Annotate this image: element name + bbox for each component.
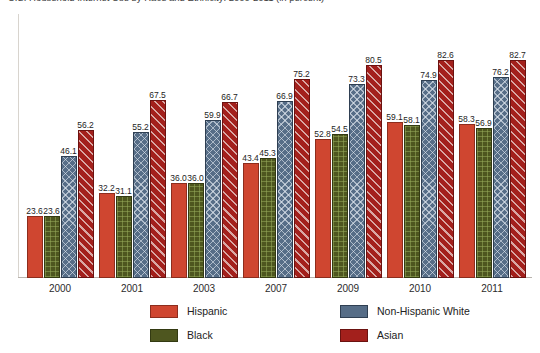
- bar: 54.5: [332, 134, 348, 278]
- bar-value-label: 32.2: [98, 184, 115, 193]
- bar-value-label: 82.7: [509, 51, 526, 60]
- legend-swatch-hispanic: [150, 305, 178, 318]
- bar-value-label: 59.9: [204, 111, 221, 120]
- bar-value-label: 31.1: [115, 187, 132, 196]
- bar: 31.1: [116, 196, 132, 278]
- bar: 82.7: [510, 60, 526, 278]
- bar-value-label: 58.1: [403, 116, 420, 125]
- x-axis-tick-label: 2007: [241, 282, 311, 295]
- bar: 46.1: [61, 156, 77, 278]
- bar: 58.1: [404, 125, 420, 278]
- diamond-pattern-icon: [206, 121, 220, 277]
- bar: 58.3: [459, 124, 475, 278]
- legend-item-hispanic[interactable]: Hispanic: [150, 303, 227, 319]
- bar-group: 23.623.646.156.2: [24, 14, 96, 278]
- x-axis-tick-label: 2001: [97, 282, 167, 295]
- legend-swatch-non-hispanic-white: [340, 305, 368, 318]
- bar-value-label: 66.7: [221, 93, 238, 102]
- bar-value-label: 73.3: [348, 75, 365, 84]
- bar: 23.6: [27, 216, 43, 278]
- bar: 66.9: [277, 101, 293, 278]
- bar-value-label: 46.1: [60, 147, 77, 156]
- bar-value-label: 55.2: [132, 123, 149, 132]
- bar-value-label: 74.9: [420, 71, 437, 80]
- bar: 67.5: [150, 100, 166, 278]
- bar-value-label: 23.6: [43, 207, 60, 216]
- stripe-pattern-icon: [151, 101, 165, 277]
- x-axis-tick-label: 2000: [25, 282, 95, 295]
- bar: 59.9: [205, 120, 221, 278]
- bar-group: 36.036.059.966.7: [168, 14, 240, 278]
- bar: 75.2: [294, 79, 310, 278]
- legend-label-hispanic: Hispanic: [187, 305, 227, 318]
- x-axis-tick-label: 2010: [385, 282, 455, 295]
- bar: 45.3: [260, 158, 276, 278]
- stripe-pattern-icon: [439, 61, 453, 277]
- legend-item-black[interactable]: Black: [150, 327, 213, 343]
- x-axis-tick-label: 2003: [169, 282, 239, 295]
- bar-value-label: 52.8: [314, 130, 331, 139]
- grid-pattern-icon: [261, 159, 275, 277]
- bar: 36.0: [188, 183, 204, 278]
- bar-value-label: 67.5: [149, 91, 166, 100]
- grid-pattern-icon: [405, 126, 419, 277]
- bar-group: 43.445.366.975.2: [240, 14, 312, 278]
- legend-label-black: Black: [187, 329, 213, 342]
- bar: 36.0: [171, 183, 187, 278]
- stripe-pattern-icon: [295, 80, 309, 277]
- bar: 23.6: [44, 216, 60, 278]
- diamond-pattern-icon: [350, 85, 364, 277]
- bar-value-label: 59.1: [386, 113, 403, 122]
- bar: 82.6: [438, 60, 454, 278]
- bar-group: 32.231.155.267.5: [96, 14, 168, 278]
- bar: 32.2: [99, 193, 115, 278]
- diamond-pattern-icon: [62, 157, 76, 277]
- bar: 66.7: [222, 102, 238, 278]
- grid-pattern-icon: [45, 217, 59, 277]
- diamond-pattern-icon: [494, 78, 508, 277]
- bar: 43.4: [243, 163, 259, 278]
- bar-value-label: 82.6: [437, 51, 454, 60]
- bar-group: 52.854.573.380.5: [312, 14, 384, 278]
- grid-pattern-icon: [189, 184, 203, 277]
- bar: 74.9: [421, 80, 437, 278]
- stripe-pattern-icon: [223, 103, 237, 277]
- legend-swatch-asian: [340, 329, 368, 342]
- y-axis-line: [18, 14, 19, 278]
- legend-label-asian: Asian: [377, 329, 403, 342]
- bar: 56.9: [476, 128, 492, 278]
- bar-chart: U.S. Household Internet Use by Race and …: [0, 0, 540, 353]
- bar-value-label: 36.0: [170, 174, 187, 183]
- stripe-pattern-icon: [511, 61, 525, 277]
- grid-pattern-icon: [477, 129, 491, 277]
- legend-item-asian[interactable]: Asian: [340, 327, 403, 343]
- grid-pattern-icon: [117, 197, 131, 277]
- bar-value-label: 45.3: [259, 149, 276, 158]
- bar: 59.1: [387, 122, 403, 278]
- stripe-pattern-icon: [79, 131, 93, 277]
- bar: 73.3: [349, 84, 365, 278]
- legend-label-non-hispanic-white: Non-Hispanic White: [377, 305, 470, 318]
- bar-value-label: 66.9: [276, 92, 293, 101]
- bar: 55.2: [133, 132, 149, 278]
- legend-item-non-hispanic-white[interactable]: Non-Hispanic White: [340, 303, 470, 319]
- bar-group: 59.158.174.982.6: [384, 14, 456, 278]
- x-axis-tick-label: 2009: [313, 282, 383, 295]
- bar-value-label: 58.3: [458, 115, 475, 124]
- diamond-pattern-icon: [422, 81, 436, 277]
- bar-value-label: 76.2: [492, 68, 509, 77]
- chart-legend: Hispanic Black Non-Hispanic White Asian: [150, 303, 470, 347]
- bar: 76.2: [493, 77, 509, 278]
- stripe-pattern-icon: [367, 66, 381, 277]
- bar: 52.8: [315, 139, 331, 278]
- plot-area: 23.623.646.156.232.231.155.267.536.036.0…: [24, 14, 528, 278]
- bar-value-label: 36.0: [187, 174, 204, 183]
- diamond-pattern-icon: [278, 102, 292, 277]
- bar-value-label: 80.5: [365, 56, 382, 65]
- bar-value-label: 56.9: [475, 119, 492, 128]
- x-axis-tick-label: 2011: [457, 282, 527, 295]
- legend-swatch-black: [150, 329, 178, 342]
- chart-title: U.S. Household Internet Use by Race and …: [8, 0, 438, 5]
- bar-value-label: 43.4: [242, 154, 259, 163]
- bar-value-label: 56.2: [77, 121, 94, 130]
